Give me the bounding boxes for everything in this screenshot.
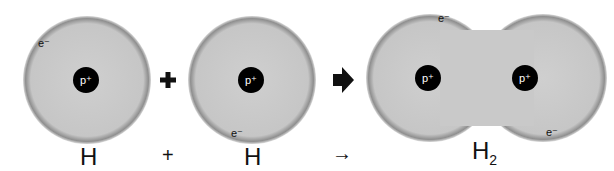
electron-atom-1: e⁻ (38, 37, 50, 50)
proton-molecule-2: p⁺ (512, 65, 538, 91)
label-h2: H2 (472, 137, 497, 168)
electron-molecule-1: e⁻ (438, 12, 450, 25)
proton-atom-1: p⁺ (73, 67, 99, 93)
proton-atom-2: p⁺ (238, 67, 264, 93)
label-h-1: H (80, 143, 97, 171)
big-plus-icon (160, 72, 176, 88)
electron-molecule-2: e⁻ (546, 126, 558, 139)
reaction-arrow-icon (333, 67, 354, 93)
small-plus: + (162, 144, 174, 167)
electron-atom-2: e⁻ (231, 127, 243, 140)
proton-molecule-1: p⁺ (415, 65, 441, 91)
label-h-2: H (244, 143, 261, 171)
small-arrow: → (332, 142, 352, 165)
